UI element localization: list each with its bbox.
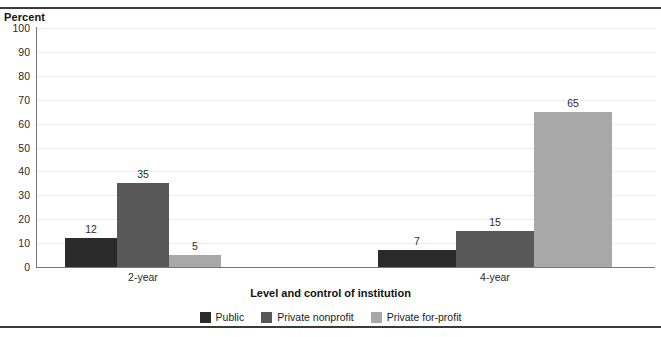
y-axis-tick-label: 80 (0, 71, 30, 82)
x-axis-title: Level and control of institution (0, 287, 661, 299)
plot-area: 1235571565 (37, 28, 655, 267)
legend-swatch-icon (200, 312, 211, 323)
legend-label: Private nonprofit (277, 311, 353, 323)
x-axis-group-label: 2-year (65, 271, 221, 283)
bar (378, 250, 456, 267)
clipped-footnote-text (4, 329, 424, 337)
legend-swatch-icon (371, 312, 382, 323)
legend-item: Private for-profit (371, 311, 462, 323)
bar-value-label: 15 (456, 217, 534, 228)
y-axis-tick-label: 100 (0, 23, 30, 34)
legend-swatch-icon (261, 312, 272, 323)
clipped-header-text (120, 0, 550, 4)
bar-value-label: 7 (378, 236, 456, 247)
gridline (37, 52, 655, 53)
top-rule (0, 7, 661, 9)
bar (117, 183, 169, 267)
bar-value-label: 65 (534, 98, 612, 109)
gridline (37, 76, 655, 77)
y-axis-tick-label: 60 (0, 119, 30, 130)
y-axis-tick-label: 20 (0, 214, 30, 225)
legend-item: Public (200, 311, 245, 323)
bar-value-label: 5 (169, 241, 221, 252)
y-axis-tick-label: 10 (0, 238, 30, 249)
bottom-rule (0, 326, 661, 328)
bar (169, 255, 221, 267)
legend-item: Private nonprofit (261, 311, 353, 323)
legend-label: Public (216, 311, 245, 323)
bar-value-label: 12 (65, 224, 117, 235)
y-axis-tick-label: 0 (0, 262, 30, 273)
y-axis-line (36, 27, 37, 268)
legend-label: Private for-profit (387, 311, 462, 323)
bar (534, 112, 612, 267)
y-axis-tick-label: 30 (0, 190, 30, 201)
bar (65, 238, 117, 267)
y-axis-tick-label: 50 (0, 143, 30, 154)
x-axis-group-label: 4-year (378, 271, 612, 283)
chart-legend: PublicPrivate nonprofitPrivate for-profi… (0, 311, 661, 323)
y-axis-tick-label: 40 (0, 166, 30, 177)
bar (456, 231, 534, 267)
y-axis-tick-label: 90 (0, 47, 30, 58)
bar-value-label: 35 (117, 169, 169, 180)
x-axis-line (37, 267, 655, 268)
y-axis-tick-label: 70 (0, 95, 30, 106)
gridline (37, 28, 655, 29)
